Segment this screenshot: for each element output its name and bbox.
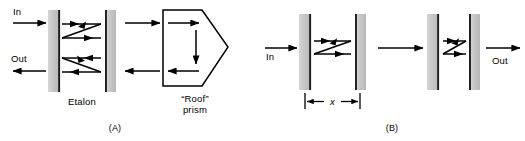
zigzag-arrow-upper-top bbox=[70, 21, 80, 27]
dimension-label-x: x bbox=[324, 96, 341, 107]
cavity-lower-zigzag bbox=[62, 55, 101, 75]
plate-2 bbox=[355, 14, 366, 90]
optics-figure: In Out Etalon “Roof” prism (A) bbox=[0, 0, 525, 141]
panel-b-graphics bbox=[262, 0, 525, 141]
panel-b-tag: (B) bbox=[372, 123, 412, 134]
zigzag-arrow-lower-top bbox=[84, 55, 94, 61]
etalon-plate-right bbox=[105, 10, 116, 92]
panel-a-graphics bbox=[0, 0, 262, 141]
plate-4 bbox=[469, 14, 480, 90]
panel-a: In Out Etalon “Roof” prism (A) bbox=[0, 0, 262, 141]
panel-a-in-label: In bbox=[13, 6, 21, 17]
zigzag-arrow-upper-bottom bbox=[84, 35, 94, 41]
plate-3 bbox=[427, 14, 439, 90]
zigzag-arrow-upper-diag bbox=[78, 22, 86, 30]
plate-1 bbox=[299, 14, 311, 90]
roof-prism-label-line1: “Roof” bbox=[165, 93, 225, 104]
panel-a-out-label: Out bbox=[11, 53, 27, 64]
panel-b-in-label: In bbox=[266, 51, 274, 62]
etalon-plate-left bbox=[48, 10, 60, 92]
zigzag-arrow-lower-bottom bbox=[70, 69, 80, 75]
panel-b: In Out x (B) bbox=[262, 0, 525, 141]
cavity-2-zigzag bbox=[443, 38, 466, 57]
cavity-upper-zigzag bbox=[62, 21, 101, 41]
cavity-1-zigzag bbox=[314, 38, 351, 57]
panel-b-out-label: Out bbox=[492, 55, 508, 66]
zigzag-arrow-lower-diag bbox=[77, 56, 85, 64]
panel-a-tag: (A) bbox=[95, 123, 135, 134]
roof-prism-label-line2: prism bbox=[165, 104, 225, 115]
etalon-label: Etalon bbox=[57, 96, 107, 107]
